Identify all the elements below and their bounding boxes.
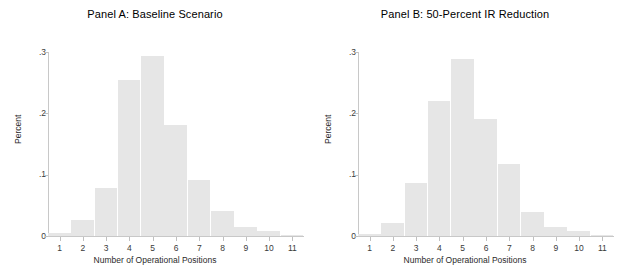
histogram-bar [164,125,187,236]
histogram-bar [498,164,521,236]
x-tick-label: 6 [165,243,187,253]
panel-a-x-axis-title: Number of Operational Positions [0,255,310,265]
x-tick-mark [176,237,177,241]
y-tick-label: 0 [24,232,46,241]
x-tick-label: 5 [452,243,474,253]
panel-a-y-axis-line [48,52,49,237]
panel-a-y-axis-title: Percent [14,115,23,144]
x-tick-mark [106,237,107,241]
panel-b-y-axis-title: Percent [324,115,333,144]
x-tick-label: 3 [405,243,427,253]
x-tick-mark [556,237,557,241]
histogram-bar [234,227,257,236]
x-tick-mark [246,237,247,241]
histogram-bar [381,223,404,236]
x-tick-label: 8 [212,243,234,253]
x-tick-mark [83,237,84,241]
histogram-bar [118,80,141,236]
x-tick-mark [393,237,394,241]
y-tick-text: .1 [334,170,356,179]
histogram-bar [428,101,451,236]
panel-b-y-axis-line [358,52,359,237]
histogram-bar [48,233,71,236]
y-tick-label: .2 [24,109,46,118]
y-tick-text: .1 [24,170,46,179]
x-tick-label: 2 [382,243,404,253]
histogram-bar [451,59,474,236]
histogram-bar [188,180,211,236]
y-tick-text: 0 [334,232,356,241]
x-tick-label: 6 [475,243,497,253]
x-tick-label: 3 [95,243,117,253]
x-tick-mark [533,237,534,241]
panel-b-plot-area: Percent Number of Operational Positions … [310,0,620,277]
x-tick-label: 1 [49,243,71,253]
x-tick-mark [223,237,224,241]
x-tick-mark [199,237,200,241]
y-tick-mark [45,52,48,53]
x-tick-mark [439,237,440,241]
x-tick-mark [416,237,417,241]
y-tick-mark [45,236,48,237]
y-tick-mark [45,113,48,114]
x-tick-mark [509,237,510,241]
histogram-bar [141,56,164,236]
histogram-bar [257,231,280,236]
x-tick-label: 10 [258,243,280,253]
x-tick-mark [60,237,61,241]
y-tick-label: .1 [334,170,356,179]
x-tick-mark [292,237,293,241]
x-tick-label: 8 [522,243,544,253]
histogram-bar [521,212,544,236]
panel-a-plot-area: Percent Number of Operational Positions … [0,0,310,277]
y-tick-text: .3 [24,48,46,57]
x-tick-mark [370,237,371,241]
x-tick-label: 2 [72,243,94,253]
x-tick-mark [486,237,487,241]
y-tick-mark [45,175,48,176]
x-tick-label: 7 [188,243,210,253]
histogram-bar [544,227,567,236]
y-tick-mark [355,113,358,114]
two-panel-histogram-figure: Panel A: Baseline Scenario Percent Numbe… [0,0,621,277]
panel-a: Panel A: Baseline Scenario Percent Numbe… [0,0,310,277]
x-tick-label: 10 [568,243,590,253]
y-tick-label: 0 [334,232,356,241]
histogram-bar [474,119,497,236]
histogram-bar [591,235,614,236]
x-tick-label: 11 [281,243,303,253]
x-tick-label: 9 [545,243,567,253]
x-tick-mark [153,237,154,241]
histogram-bar [281,235,304,236]
x-tick-mark [269,237,270,241]
histogram-bar [405,183,428,236]
y-tick-label: .1 [24,170,46,179]
y-tick-mark [355,52,358,53]
histogram-bar [358,234,381,236]
x-tick-label: 4 [428,243,450,253]
x-tick-label: 4 [118,243,140,253]
y-tick-text: 0 [24,232,46,241]
x-tick-label: 9 [235,243,257,253]
x-tick-label: 5 [142,243,164,253]
x-tick-mark [129,237,130,241]
x-tick-label: 11 [591,243,613,253]
panel-b: Panel B: 50-Percent IR Reduction Percent… [310,0,620,277]
x-tick-mark [579,237,580,241]
x-tick-label: 1 [359,243,381,253]
histogram-bar [567,231,590,236]
y-tick-text: .3 [334,48,356,57]
histogram-bar [95,188,118,236]
histogram-bar [211,211,234,236]
y-tick-text: .2 [24,109,46,118]
y-tick-label: .3 [334,48,356,57]
y-tick-text: .2 [334,109,356,118]
y-tick-label: .2 [334,109,356,118]
y-tick-mark [355,175,358,176]
x-tick-label: 7 [498,243,520,253]
histogram-bar [71,220,94,236]
y-tick-label: .3 [24,48,46,57]
x-tick-mark [602,237,603,241]
x-tick-mark [463,237,464,241]
panel-b-x-axis-title: Number of Operational Positions [310,255,620,265]
